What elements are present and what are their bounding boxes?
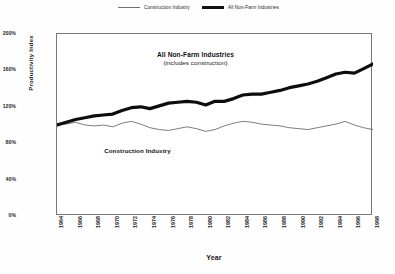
y-axis-tick-0: 0% [0,215,16,221]
legend-label-construction-industry: Construction Industry [144,5,190,10]
series-line-all-non-farm-industries [57,64,373,125]
annotation-construction-line1: Construction Industry [104,147,171,154]
y-axis-title: Productivity Index [28,8,34,118]
legend-label-all-non-farm-industries: All Non-Farm Industries [228,5,279,10]
legend-swatch-thin-line-icon [118,7,140,8]
y-axis-tick-160: 160% [0,69,16,75]
y-axis-tick-80: 80% [0,142,16,148]
x-axis-title: Year [56,254,372,261]
legend-entry-all-non-farm-industries: All Non-Farm Industries [202,5,276,10]
chart-legend: Construction Industry All Non-Farm Indus… [0,5,395,10]
series-line-construction-industry [57,121,373,131]
legend-swatch-thick-line-icon [202,6,224,9]
legend-entry-construction-industry: Construction Industry [118,5,188,10]
chart-root: Construction Industry All Non-Farm Indus… [0,0,395,274]
annotation-construction-industry: Construction Industry [75,147,200,154]
y-axis-tick-200: 200% [0,33,16,39]
y-axis-tick-40: 40% [0,179,16,185]
annotation-nonfarm-line2: (includes construction) [133,59,258,66]
annotation-all-non-farm-industries: All Non-Farm Industries (includes constr… [133,51,258,66]
y-axis-tick-120: 120% [0,106,16,112]
plot-area: All Non-Farm Industries (includes constr… [56,33,372,215]
x-axis-tick-labels: 1964196619681970197219741976197819801982… [56,216,372,256]
annotation-nonfarm-line1: All Non-Farm Industries [133,51,258,58]
